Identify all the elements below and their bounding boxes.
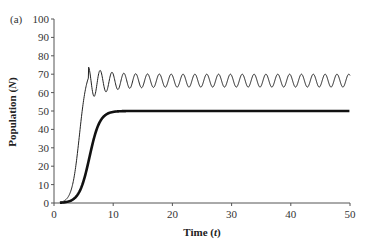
y-tick-label: 70	[38, 68, 50, 80]
x-axis-title: Time (t)	[183, 226, 221, 239]
y-tick-label: 0	[44, 197, 50, 209]
y-tick-label: 20	[38, 160, 50, 172]
y-tick-label: 60	[38, 87, 50, 99]
x-tick-label: 20	[167, 208, 179, 220]
y-tick-label: 30	[38, 142, 50, 154]
x-tick-label: 10	[108, 208, 120, 220]
y-tick-label: 90	[38, 31, 50, 43]
x-tick-label: 50	[345, 208, 357, 220]
oscillating-curve	[60, 67, 350, 202]
logistic-curve	[60, 111, 349, 203]
y-axis-title: Population (N)	[6, 77, 19, 147]
y-tick-label: 100	[33, 13, 50, 25]
panel-label: (a)	[10, 13, 23, 26]
series-layer	[60, 67, 350, 203]
x-tick-label: 40	[285, 208, 297, 220]
population-chart: 010203040506070809010001020304050 (a) Ti…	[0, 0, 373, 247]
y-tick-label: 80	[38, 50, 50, 62]
y-tick-label: 40	[38, 123, 50, 135]
x-tick-label: 30	[226, 208, 238, 220]
y-tick-label: 10	[38, 179, 50, 191]
x-tick-label: 0	[51, 208, 57, 220]
y-tick-label: 50	[38, 105, 50, 117]
